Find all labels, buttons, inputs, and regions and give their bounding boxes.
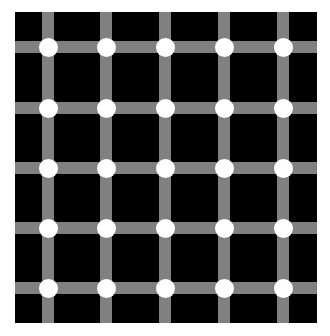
intersection-dot [215, 99, 234, 118]
intersection-dot [215, 219, 234, 238]
scintillating-grid [15, 12, 317, 323]
intersection-dot [39, 99, 58, 118]
intersection-dot [156, 219, 175, 238]
intersection-dot [215, 38, 234, 57]
intersection-dot [97, 279, 116, 298]
intersection-dot [156, 38, 175, 57]
intersection-dot [39, 279, 58, 298]
intersection-dot [156, 99, 175, 118]
intersection-dot [97, 159, 116, 178]
intersection-dot [215, 279, 234, 298]
intersection-dot [156, 159, 175, 178]
intersection-dot [97, 38, 116, 57]
intersection-dot [274, 279, 293, 298]
intersection-dot [156, 279, 175, 298]
intersection-dot [39, 219, 58, 238]
intersection-dot [97, 99, 116, 118]
intersection-dot [97, 219, 116, 238]
intersection-dot [274, 219, 293, 238]
intersection-dot [39, 38, 58, 57]
intersection-dot [274, 99, 293, 118]
intersection-dot [274, 159, 293, 178]
intersection-dot [39, 159, 58, 178]
intersection-dot [215, 159, 234, 178]
intersection-dot [274, 38, 293, 57]
